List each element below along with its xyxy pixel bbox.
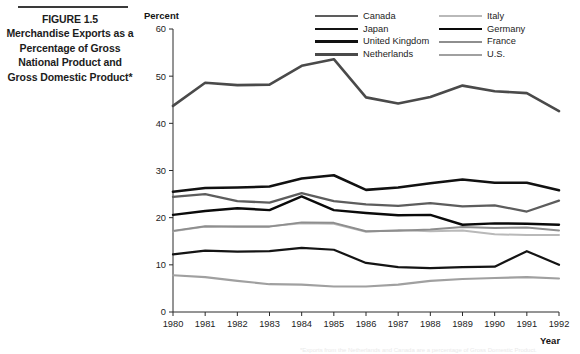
series-line-united-kingdom [173,175,559,192]
axis-lines [173,29,559,312]
chart-region: Percent Year CanadaJapanUnited KingdomNe… [140,0,580,354]
x-tick-label: 1991 [516,319,537,329]
y-tick-label: 0 [161,307,166,317]
y-tick-label: 20 [156,213,166,223]
x-tick-label: 1983 [259,319,280,329]
y-tick-label: 10 [156,260,166,270]
x-axis-ticks: 1980198119821983198419851986198719881989… [163,312,570,329]
series-line-u-s [173,275,559,286]
x-tick-label: 1990 [484,319,505,329]
figure-caption-text: FIGURE 1.5 Merchandise Exports as a Perc… [4,12,136,84]
x-tick-label: 1981 [195,319,216,329]
series-line-japan [173,248,559,268]
series-line-italy [173,223,559,235]
x-tick-label: 1988 [420,319,441,329]
y-axis-ticks: 0102030405060 [156,24,173,317]
figure-caption-block: FIGURE 1.5 Merchandise Exports as a Perc… [0,0,140,354]
x-tick-label: 1985 [323,319,344,329]
y-tick-label: 40 [156,119,166,129]
x-tick-label: 1992 [549,319,570,329]
x-tick-label: 1982 [227,319,248,329]
x-tick-label: 1989 [452,319,473,329]
series-line-netherlands [173,59,559,111]
x-tick-label: 1986 [356,319,377,329]
figure-number: FIGURE 1.5 [4,12,136,26]
figure-footnote: *Exports from the Netherlands and Canada… [300,347,580,354]
figure-caption-body: Merchandise Exports as a Percentage of G… [6,27,133,82]
y-tick-label: 60 [156,24,166,34]
x-tick-label: 1987 [388,319,409,329]
y-tick-label: 50 [156,72,166,82]
data-series-group [173,59,559,286]
y-tick-label: 30 [156,166,166,176]
x-tick-label: 1980 [163,319,184,329]
line-chart-plot: 0102030405060198019811982198319841985198… [140,0,580,354]
caption-divider-rule [18,6,128,8]
x-tick-label: 1984 [291,319,312,329]
